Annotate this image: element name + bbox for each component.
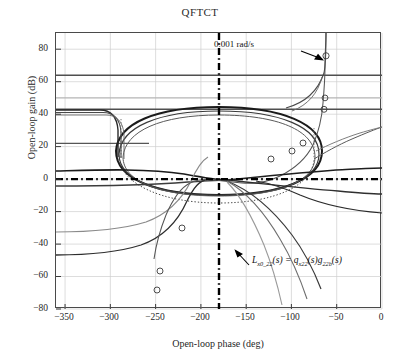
loop-transmission-annotation: Lx0_22(s) = qx22(s)g22b(s) (252, 255, 342, 267)
xtick-label: −350 (42, 312, 86, 322)
xtick-label: 0 (359, 312, 400, 322)
xtick-label: −250 (133, 312, 177, 322)
frequency-annotation: 0.001 rad/s (214, 39, 254, 49)
xtick-label: −200 (178, 312, 222, 322)
ytick-label: −20 (14, 205, 48, 215)
loop-transmission-curve (154, 33, 326, 259)
annotation-arrows (234, 51, 324, 265)
y-axis-label: Open-loop gain (dB) (26, 38, 37, 198)
ytick-label: −60 (14, 270, 48, 280)
left-entry-curves (56, 110, 124, 159)
plot-area: 0.001 rad/s Lx0_22(s) = qx22(s)g22b(s) (55, 32, 381, 308)
chart-title: QFTCT (0, 6, 400, 18)
xtick-label: −150 (223, 312, 267, 322)
ytick-label: −40 (14, 238, 48, 248)
nichols-chart-figure: QFTCT (0, 0, 400, 361)
lower-left-rising-curves (56, 157, 208, 255)
xtick-label: −300 (87, 312, 131, 322)
reference-lines (56, 33, 382, 309)
xtick-label: −50 (314, 312, 358, 322)
x-axis-label: Open-loop phase (deg) (55, 338, 381, 349)
xtick-label: −100 (268, 312, 312, 322)
plot-svg (56, 33, 382, 309)
